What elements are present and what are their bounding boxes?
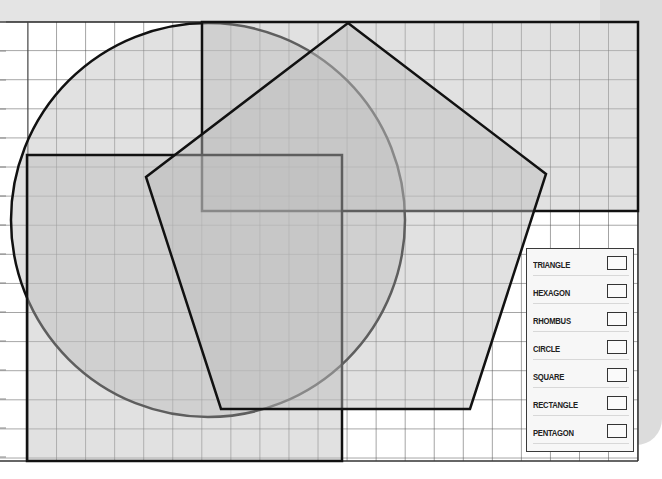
legend-label: TRIANGLE — [533, 260, 570, 270]
legend-label: RHOMBUS — [533, 316, 571, 326]
answer-checkbox[interactable] — [607, 284, 627, 298]
legend-label: RECTANGLE — [533, 400, 578, 410]
legend-item-rectangle: RECTANGLE — [533, 395, 629, 416]
answer-checkbox[interactable] — [607, 396, 627, 410]
shape-legend: TRIANGLE HEXAGON RHOMBUS CIRCLE SQUARE R… — [526, 248, 634, 452]
legend-item-triangle: TRIANGLE — [533, 255, 629, 276]
answer-checkbox[interactable] — [607, 340, 627, 354]
legend-label: CIRCLE — [533, 344, 560, 354]
legend-label: PENTAGON — [533, 428, 574, 438]
answer-checkbox[interactable] — [607, 256, 627, 270]
legend-item-rhombus: RHOMBUS — [533, 311, 629, 332]
legend-item-square: SQUARE — [533, 367, 629, 388]
legend-item-pentagon: PENTAGON — [533, 423, 629, 444]
legend-label: HEXAGON — [533, 288, 570, 298]
answer-checkbox[interactable] — [607, 312, 627, 326]
answer-checkbox[interactable] — [607, 368, 627, 382]
legend-item-hexagon: HEXAGON — [533, 283, 629, 304]
answer-checkbox[interactable] — [607, 424, 627, 438]
legend-label: SQUARE — [533, 372, 564, 382]
legend-item-circle: CIRCLE — [533, 339, 629, 360]
